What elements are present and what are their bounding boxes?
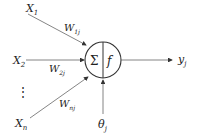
- weight-n-label: Wnj: [59, 98, 75, 112]
- output-label: yj: [177, 53, 187, 68]
- input-2-label: X2: [12, 54, 26, 69]
- sum-symbol: Σ: [90, 54, 98, 68]
- input-n-label: Xn: [14, 117, 28, 132]
- input-1-label: X1: [25, 2, 38, 17]
- ellipsis: ⋮: [17, 85, 29, 99]
- neuron-diagram: X1 W1j X2 W2j ⋮ Xn Wnj Σ f θj yj: [0, 0, 199, 140]
- activation-symbol: f: [106, 54, 114, 68]
- output: yj: [121, 53, 187, 68]
- input-1: X1 W1j: [25, 2, 86, 45]
- neuron: Σ f: [85, 42, 121, 78]
- weight-1-label: W1j: [64, 22, 80, 36]
- input-2: X2 W2j: [12, 54, 84, 77]
- threshold-label: θj: [98, 118, 108, 133]
- weight-2-label: W2j: [49, 63, 65, 77]
- threshold: θj: [98, 80, 108, 133]
